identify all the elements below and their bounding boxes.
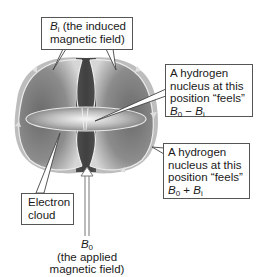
eq-subi: i: [201, 189, 203, 198]
eq-bi: B: [193, 184, 201, 196]
nucleus-plus-label: A hydrogen nucleus at this position “fee…: [163, 143, 250, 199]
applied-field-text-2: magnetic field): [40, 263, 134, 276]
induced-field-text-2: magnetic field): [50, 33, 128, 46]
induced-field-text-1: (the induced: [59, 20, 126, 32]
electron-cloud-line1: Electron: [28, 196, 69, 209]
nucleus-plus-equation: B0 + Bi: [168, 184, 245, 197]
eq-bi: B: [195, 105, 203, 117]
electron-cloud-label: Electron cloud: [21, 193, 74, 225]
nucleus-plus-line1: A hydrogen: [168, 146, 245, 159]
nucleus-plus-line2: nucleus at this: [168, 159, 245, 172]
nucleus-minus-label: A hydrogen nucleus at this position “fee…: [165, 64, 253, 117]
eq-subi: i: [203, 110, 205, 119]
eq-b0: B: [170, 105, 178, 117]
nucleus-minus-line1: A hydrogen: [170, 67, 248, 80]
nucleus-plus-line3: position “feels”: [168, 171, 245, 184]
nucleus-minus-line3: position “feels”: [170, 92, 248, 105]
induced-field-symbol: B: [50, 20, 58, 32]
eq-b0: B: [168, 184, 176, 196]
applied-field-text-1: (the applied: [40, 251, 134, 264]
eq-operator: −: [182, 105, 195, 117]
eq-operator: +: [180, 184, 193, 196]
electron-cloud-line2: cloud: [28, 209, 69, 222]
applied-field-arrow: [81, 167, 93, 236]
induced-field-label: Bi (the induced magnetic field): [41, 17, 133, 50]
applied-field-label: B0 (the applied magnetic field): [40, 238, 134, 276]
applied-field-symbol: B: [81, 238, 89, 250]
nucleus-minus-line2: nucleus at this: [170, 80, 248, 93]
nucleus-minus-equation: B0 − Bi: [170, 105, 248, 118]
